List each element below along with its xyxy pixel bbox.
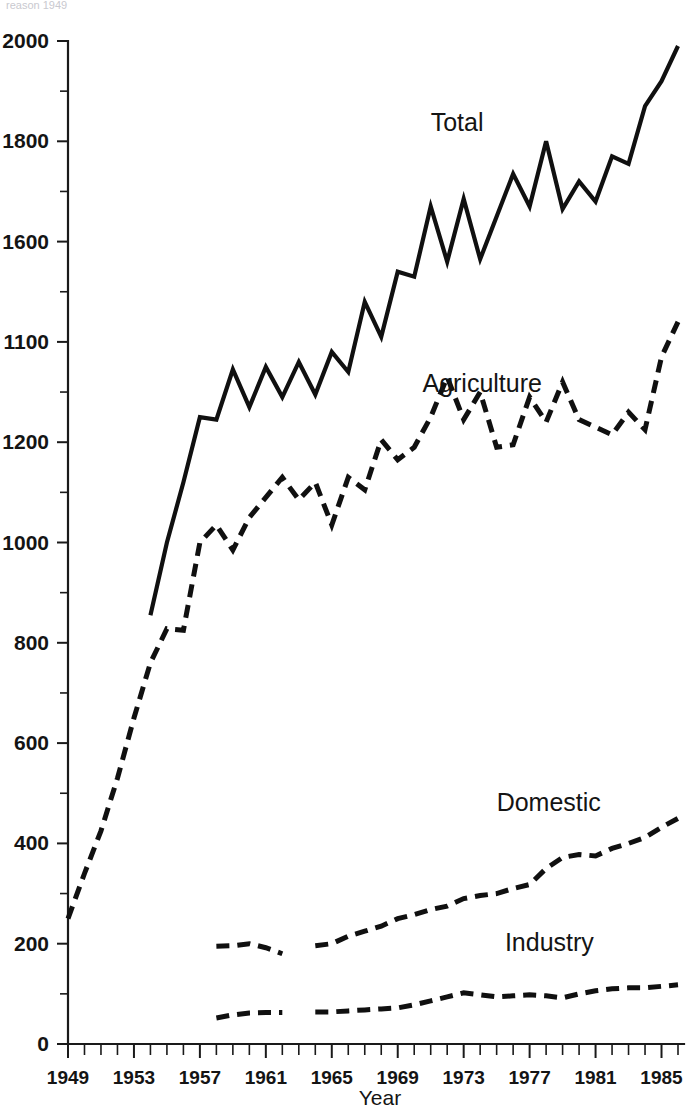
y-tick-label: 200 [14,932,49,955]
line-chart-svg: reason 1949 0200400600800100012001100160… [0,0,691,1114]
y-tick-label: 1000 [2,531,49,554]
series-line-agriculture [68,322,678,919]
series-label-total: Total [431,108,484,136]
series-line-domestic [216,944,282,954]
x-tick-label: 1957 [179,1067,221,1088]
y-tick-label: 1100 [3,330,49,353]
y-tick-label: 2000 [2,29,49,52]
series-label-agriculture: Agriculture [422,369,542,397]
x-tick-label: 1977 [508,1067,550,1088]
x-tick-label: 1981 [574,1067,617,1088]
y-axis: 0200400600800100012001100160018002000 [2,29,68,1055]
x-tick-label: 1949 [47,1067,89,1088]
y-tick-label: 800 [14,631,49,654]
x-tick-label: 1969 [377,1067,419,1088]
x-tick-label: 1961 [245,1067,288,1088]
series-line-domestic [315,818,678,945]
x-tick-label: 1973 [443,1067,485,1088]
x-axis: 1949195319571961196519691973197719811985 [47,1044,684,1088]
y-tick-label: 600 [14,731,49,754]
x-tick-label: 1953 [113,1067,155,1088]
x-tick-label: 1965 [311,1067,354,1088]
chart-figure: reason 1949 0200400600800100012001100160… [0,0,691,1114]
x-tick-label: 1985 [640,1067,683,1088]
y-tick-label: 0 [37,1032,49,1055]
y-tick-label: 1200 [2,430,49,453]
x-axis-title: Year [359,1086,401,1109]
series-line-industry [216,1012,282,1018]
series-label-industry: Industry [505,928,594,956]
y-tick-label: 1800 [2,129,49,152]
series-line-industry [315,985,678,1012]
top-cropped-text: reason 1949 [6,0,67,11]
y-tick-label: 400 [14,831,49,854]
series-annotations: TotalAgricultureDomesticIndustry [422,108,600,956]
series-line-total [150,46,678,615]
y-tick-label: 1600 [2,230,49,253]
series-lines [68,46,678,1018]
series-label-domestic: Domestic [497,788,601,816]
